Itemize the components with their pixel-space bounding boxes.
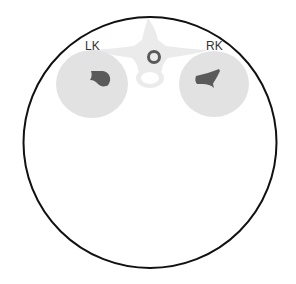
right-kidney-label: RK (206, 39, 223, 53)
left-kidney-label: LK (85, 39, 100, 53)
ct-diagram: LK RK (0, 0, 296, 284)
right-kidney (179, 51, 249, 117)
vertebral-body-center (141, 72, 159, 84)
left-kidney (56, 50, 128, 118)
